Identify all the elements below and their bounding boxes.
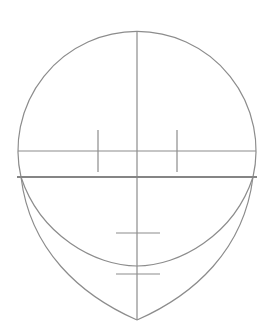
face-guide-diagram	[0, 0, 271, 334]
face-guide-svg	[0, 0, 271, 334]
